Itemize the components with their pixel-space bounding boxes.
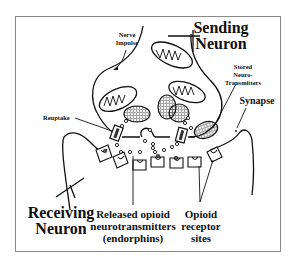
mitochondrion-1 [148, 37, 196, 74]
receptor-site [96, 145, 112, 162]
stored-neurotransmitters-label-line3: Transmitters [225, 79, 261, 86]
synapse-pointer [237, 108, 246, 128]
nerve-impulse-label: Nerve [119, 31, 136, 38]
receiving-neuron-membrane [63, 130, 254, 210]
receptor-sites-label-line2: receptor [181, 220, 221, 232]
vesicle-3 [169, 104, 189, 122]
receptor-sites-label: Opioid [185, 208, 217, 220]
synapse-label: Synapse [239, 95, 275, 106]
receptor-site [207, 147, 222, 162]
synapse-diagram: Sending Neuron Nerve Impulse Stored Neur… [0, 0, 298, 269]
receiving-neuron-cut-line [56, 178, 84, 198]
stored-neurotransmitters-pointer [213, 84, 236, 128]
released-neurotransmitters-label: Released opioid [96, 208, 170, 220]
receptor-site [133, 160, 146, 170]
reuptake-pointer [75, 118, 112, 131]
released-neurotransmitters-label-line3: (endorphins) [103, 232, 164, 245]
receptor-site [151, 157, 164, 167]
nerve-impulse-label-line2: Impulse [116, 39, 139, 46]
stored-neurotransmitters-label: Stored [234, 63, 253, 70]
sending-neuron-label-line2: Neuron [195, 35, 246, 52]
stored-neurotransmitters-label-line2: Neuro- [233, 71, 252, 78]
receptor-site [113, 152, 128, 168]
receiving-neuron-label-line2: Neuron [35, 220, 86, 237]
released-neurotransmitters-label-line2: neurotransmitters [90, 220, 176, 232]
reuptake-transporter-right [175, 127, 187, 143]
receptor-sites-label-line3: sites [191, 232, 212, 244]
vesicle-1 [124, 106, 150, 122]
receptor-site [188, 157, 201, 167]
reuptake-label: Reuptake [43, 114, 70, 121]
